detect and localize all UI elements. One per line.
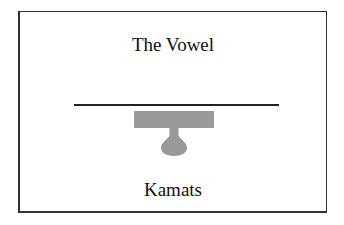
vowel-name-label: Kamats <box>20 179 326 201</box>
vowel-card: The Vowel Kamats <box>18 11 327 213</box>
card-title: The Vowel <box>20 34 326 56</box>
kamats-vowel-mark-icon <box>134 111 214 157</box>
letter-baseline <box>74 104 279 106</box>
